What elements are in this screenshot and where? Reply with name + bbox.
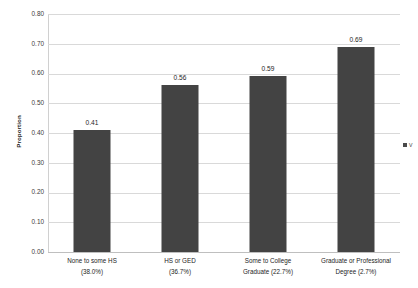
y-axis-tick-label: 0.00 [18, 249, 44, 255]
y-axis-tick-label: 0.30 [18, 160, 44, 166]
bar-value-label: 0.69 [350, 37, 363, 44]
bar-value-label: 0.41 [86, 120, 99, 127]
y-axis-tick-label: 0.20 [18, 189, 44, 195]
bar-slot: 0.69 [312, 14, 400, 252]
x-axis-tick-label: None to some HS(38.0%) [48, 256, 136, 277]
x-axis-tick-label: HS or GED(36.7%) [136, 256, 224, 277]
x-axis-tick-label: Graduate or ProfessionalDegree (2.7%) [312, 256, 400, 277]
y-axis-tick-label: 0.80 [18, 11, 44, 17]
bar[interactable] [74, 130, 111, 252]
bar[interactable] [338, 47, 375, 252]
gridline [48, 252, 400, 253]
legend-entry-label: V [409, 142, 412, 148]
bar-slot: 0.41 [48, 14, 136, 252]
bar[interactable] [162, 85, 199, 252]
bar-value-label: 0.59 [262, 66, 275, 73]
x-axis-tick-labels: None to some HS(38.0%)HS or GED(36.7%)So… [48, 256, 400, 288]
y-axis-tick-label: 0.10 [18, 219, 44, 225]
y-axis-tick-label: 0.40 [18, 130, 44, 136]
y-axis-tick-label: 0.60 [18, 70, 44, 76]
bar-value-label: 0.56 [174, 75, 187, 82]
bar-slot: 0.56 [136, 14, 224, 252]
bar[interactable] [250, 76, 287, 252]
x-axis-tick-label: Some to CollegeGraduate (22.7%) [224, 256, 312, 277]
y-axis-tick-label: 0.70 [18, 41, 44, 47]
bar-slot: 0.59 [224, 14, 312, 252]
legend-swatch-icon [403, 143, 407, 147]
y-axis-tick-label: 0.50 [18, 100, 44, 106]
bar-chart: Proportion 0.800.700.600.500.400.300.200… [0, 0, 418, 288]
plot-area: 0.410.560.590.69 [48, 14, 400, 252]
y-axis-tick-labels: 0.800.700.600.500.400.300.200.100.00 [18, 0, 44, 288]
chart-legend: V [403, 142, 418, 148]
